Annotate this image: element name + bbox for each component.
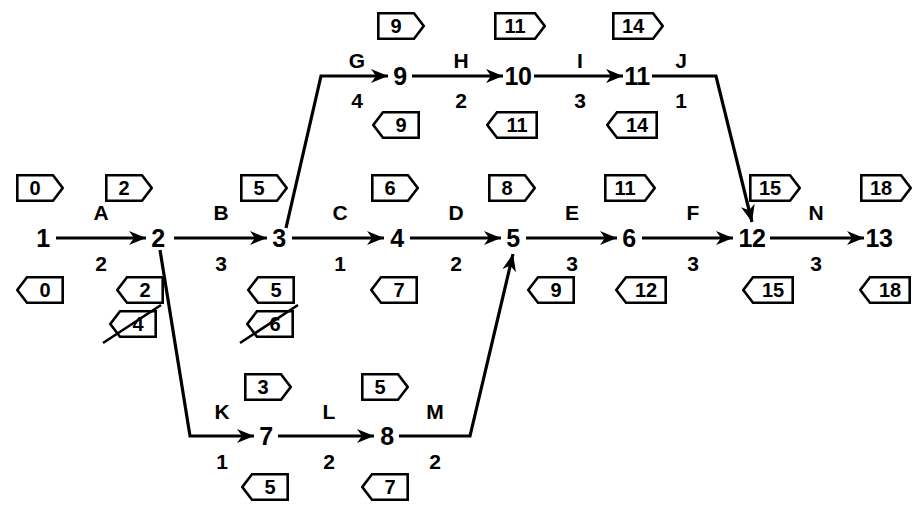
latest-time-tag: 2 [116,276,164,304]
latest-time-tag: 7 [361,473,409,501]
activity-label-e: E [565,202,579,223]
activity-label-c: C [332,202,347,223]
activity-label-h: H [453,50,468,71]
tag-value: 11 [614,178,635,198]
tag-value: 2 [139,280,150,300]
node-11: 11 [624,64,649,89]
node-3: 3 [272,226,285,251]
latest-time-tag: 12 [615,276,667,304]
tag-value: 11 [506,115,527,135]
node-5: 5 [506,226,519,251]
activity-label-m: M [426,401,444,422]
latest-time-tag: 14 [606,111,658,139]
tag-value: 15 [762,280,784,300]
tag-value: 14 [626,115,648,135]
activity-duration-i: 3 [574,90,586,111]
latest-time-tag: 18 [859,276,911,304]
activity-label-j: J [675,50,687,71]
latest-time-tag: 11 [486,111,538,139]
tag-value: 6 [269,314,280,334]
latest-time-tag: 0 [16,276,64,304]
activity-edge-k [160,250,254,436]
tag-value: 9 [390,16,401,36]
arrowhead-j [741,204,759,224]
latest-time-tag: 7 [370,276,418,304]
tag-value: 5 [374,377,385,397]
node-10: 10 [505,64,532,89]
node-8: 8 [380,424,393,449]
node-4: 4 [390,226,403,251]
tag-value: 5 [270,280,281,300]
latest-time-tag: 15 [742,276,794,304]
activity-duration-e: 3 [566,253,578,274]
node-7: 7 [259,424,272,449]
activity-label-d: D [448,202,463,223]
tag-value: 4 [132,314,143,334]
node-6: 6 [622,226,635,251]
tag-value: 9 [550,280,561,300]
node-9: 9 [393,64,406,89]
activity-edge-j [652,76,752,222]
activity-duration-a: 2 [95,253,107,274]
activity-label-a: A [93,202,108,223]
activity-duration-b: 3 [215,253,227,274]
node-12: 12 [739,226,766,251]
activity-duration-d: 2 [450,253,462,274]
earliest-time-tag: 3 [244,373,292,401]
latest-time-tag: 9 [372,111,420,139]
tag-value: 7 [384,477,395,497]
earliest-time-tag: 18 [860,174,912,202]
tag-value: 0 [29,178,40,198]
activity-duration-h: 2 [455,90,467,111]
tag-value: 15 [759,178,781,198]
activity-duration-c: 1 [334,253,346,274]
earliest-time-tag: 6 [371,174,419,202]
tag-value: 3 [257,377,268,397]
activity-label-k: K [214,401,229,422]
activity-label-b: B [213,202,228,223]
activity-duration-m: 2 [429,451,441,472]
tag-value: 0 [39,280,50,300]
earliest-time-tag: 15 [749,174,801,202]
earliest-time-tag: 5 [361,373,409,401]
latest-time-tag: 5 [241,473,289,501]
tag-value: 5 [253,178,264,198]
network-diagram-canvas: 02568111518025791215184691114911143557 1… [0,0,917,517]
node-2: 2 [151,226,164,251]
tag-value: 7 [393,280,404,300]
earliest-time-tag: 11 [494,12,546,40]
activity-duration-j: 1 [675,90,687,111]
activity-label-n: N [808,202,823,223]
tag-value: 18 [879,280,901,300]
activity-duration-k: 1 [216,451,228,472]
activity-label-g: G [349,50,365,71]
activity-label-i: I [577,50,583,71]
earliest-time-tag: 11 [604,174,656,202]
tag-value: 11 [504,16,525,36]
tag-value: 9 [395,115,406,135]
tag-value: 12 [635,280,657,300]
tag-value: 18 [870,178,892,198]
earliest-time-tag: 14 [612,12,664,40]
node-1: 1 [36,226,49,251]
activity-duration-g: 4 [351,90,363,111]
earliest-time-tag: 8 [488,174,536,202]
activity-label-l: L [323,401,336,422]
earliest-time-tag: 2 [105,174,153,202]
earliest-time-tag: 5 [240,174,288,202]
latest-time-tag: 9 [527,276,575,304]
latest-time-tag-struck: 4 [109,310,157,338]
node-13: 13 [866,226,893,251]
latest-time-tag: 5 [247,276,295,304]
activity-duration-f: 3 [687,253,699,274]
tag-value: 2 [118,178,129,198]
activity-label-f: F [687,202,700,223]
earliest-time-tag: 9 [377,12,425,40]
earliest-time-tag: 0 [16,174,64,202]
tag-value: 6 [384,178,395,198]
activity-duration-l: 2 [323,451,335,472]
tag-value: 8 [501,178,512,198]
activity-duration-n: 3 [810,253,822,274]
tag-value: 5 [264,477,275,497]
tag-value: 14 [622,16,644,36]
